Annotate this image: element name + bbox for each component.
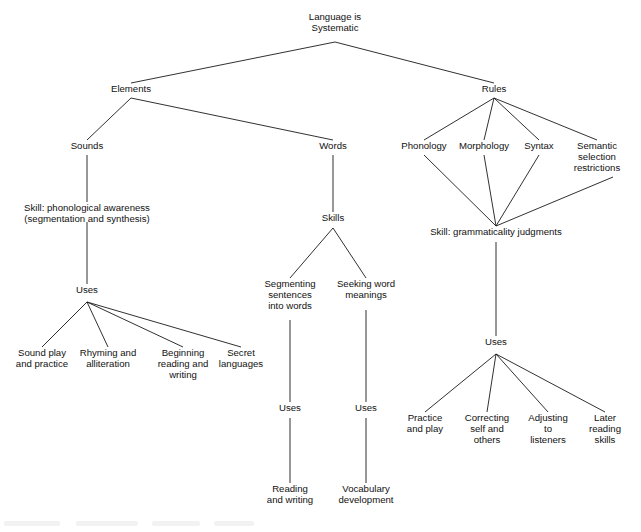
node-line: listeners xyxy=(530,434,566,445)
node-line: others xyxy=(474,434,501,445)
node-line: Vocabulary xyxy=(342,483,390,494)
node-line: meanings xyxy=(345,289,387,300)
node-secret: Secretlanguages xyxy=(219,347,263,369)
node-line: Uses xyxy=(355,402,377,413)
edge-semantic-to-skill-gram xyxy=(496,177,613,226)
node-line: to xyxy=(544,423,552,434)
node-skills-words: Skills xyxy=(322,212,345,223)
node-line: Segmenting xyxy=(264,278,315,289)
edge-skills-words-to-segmenting xyxy=(290,228,333,278)
edge-rules-to-semantic xyxy=(494,98,597,140)
edge-uses-gram-to-correcting xyxy=(487,354,496,412)
edge-uses-sounds-to-rhyming xyxy=(87,302,108,347)
node-line: Sound play xyxy=(18,347,66,358)
node-later-reading: Laterreadingskills xyxy=(589,412,621,445)
edge-rules-to-morphology xyxy=(484,98,494,140)
node-line: reading xyxy=(589,423,621,434)
edge-phonology-to-skill-gram xyxy=(424,155,496,226)
edge-rules-to-syntax xyxy=(494,98,539,140)
edge-rules-to-phonology xyxy=(424,98,494,140)
node-line: self and xyxy=(470,423,504,434)
edge-root-to-rules xyxy=(335,42,494,83)
node-correcting: Correctingself andothers xyxy=(465,412,509,445)
node-line: development xyxy=(339,494,394,505)
edge-uses-gram-to-adjusting xyxy=(496,354,548,412)
node-morphology: Morphology xyxy=(459,140,509,151)
node-line: Practice xyxy=(408,412,443,423)
node-line: reading and xyxy=(158,358,209,369)
edge-root-to-elements xyxy=(131,42,335,83)
node-line: Uses xyxy=(279,402,301,413)
node-line: Adjusting xyxy=(528,412,567,423)
node-adjusting: Adjustingtolisteners xyxy=(528,412,567,445)
node-rhyming: Rhyming andalliteration xyxy=(80,347,137,369)
node-line: (segmentation and synthesis) xyxy=(24,213,149,224)
node-line: languages xyxy=(219,358,263,369)
edge-skills-words-to-seeking xyxy=(333,228,366,278)
node-line: Skill: phonological awareness xyxy=(24,202,150,213)
node-line: Systematic xyxy=(312,22,359,33)
node-sounds: Sounds xyxy=(71,140,104,151)
node-line: selection xyxy=(578,151,616,162)
node-line: skills xyxy=(595,434,616,445)
node-practice-play: Practiceand play xyxy=(407,412,443,434)
node-elements: Elements xyxy=(111,83,151,94)
node-root: Language isSystematic xyxy=(309,11,361,33)
node-line: Syntax xyxy=(524,140,554,151)
edge-uses-gram-to-later-reading xyxy=(496,354,605,412)
edge-uses-sounds-to-sound-play xyxy=(42,302,87,347)
node-line: and practice xyxy=(16,358,68,369)
node-line: Language is xyxy=(309,11,361,22)
node-semantic: Semanticselectionrestrictions xyxy=(574,140,621,173)
node-line: Uses xyxy=(76,284,98,295)
node-line: Uses xyxy=(485,336,507,347)
node-line: Skills xyxy=(322,212,345,223)
node-sound-play: Sound playand practice xyxy=(16,347,68,369)
node-vocab-dev: Vocabularydevelopment xyxy=(339,483,394,505)
node-line: restrictions xyxy=(574,162,621,173)
node-line: into words xyxy=(268,300,312,311)
node-uses-seg: Uses xyxy=(279,402,301,413)
node-segmenting: Segmentingsentencesinto words xyxy=(264,278,315,311)
node-line: Semantic xyxy=(577,140,617,151)
node-line: Rules xyxy=(482,83,507,94)
concept-map-svg: Language isSystematicElementsRulesSounds… xyxy=(0,0,641,532)
edge-syntax-to-skill-gram xyxy=(496,155,539,226)
node-line: Morphology xyxy=(459,140,509,151)
node-beginning: Beginningreading andwriting xyxy=(158,347,209,380)
node-line: Rhyming and xyxy=(80,347,137,358)
node-skill-gram: Skill: grammaticality judgments xyxy=(430,226,562,237)
node-reading-writing: Readingand writing xyxy=(267,483,313,505)
node-line: alliteration xyxy=(86,358,130,369)
edge-elements-to-sounds xyxy=(87,98,131,140)
node-rules: Rules xyxy=(482,83,507,94)
node-line: Elements xyxy=(111,83,151,94)
node-line: Reading xyxy=(272,483,308,494)
concept-map-diagram: Language isSystematicElementsRulesSounds… xyxy=(0,0,641,532)
node-line: and writing xyxy=(267,494,313,505)
node-line: Later xyxy=(594,412,617,423)
node-line: Sounds xyxy=(71,140,104,151)
node-line: and play xyxy=(407,423,443,434)
node-uses-seek: Uses xyxy=(355,402,377,413)
nodes-group: Language isSystematicElementsRulesSounds… xyxy=(16,11,621,505)
node-skill-phono: Skill: phonological awareness(segmentati… xyxy=(24,202,150,224)
node-line: Words xyxy=(319,140,347,151)
edge-uses-gram-to-practice-play xyxy=(425,354,496,412)
node-seeking: Seeking wordmeanings xyxy=(337,278,395,300)
node-line: Phonology xyxy=(401,140,447,151)
node-line: Seeking word xyxy=(337,278,395,289)
node-uses-gram: Uses xyxy=(485,336,507,347)
edge-uses-sounds-to-beginning xyxy=(87,302,183,347)
node-line: Beginning xyxy=(162,347,205,358)
node-line: Secret xyxy=(227,347,255,358)
node-syntax: Syntax xyxy=(524,140,554,151)
node-line: Skill: grammaticality judgments xyxy=(430,226,562,237)
node-words: Words xyxy=(319,140,347,151)
node-line: sentences xyxy=(268,289,312,300)
node-line: Correcting xyxy=(465,412,509,423)
edge-uses-sounds-to-secret xyxy=(87,302,241,347)
node-line: writing xyxy=(168,369,197,380)
node-uses-sounds: Uses xyxy=(76,284,98,295)
edge-elements-to-words xyxy=(131,98,333,140)
